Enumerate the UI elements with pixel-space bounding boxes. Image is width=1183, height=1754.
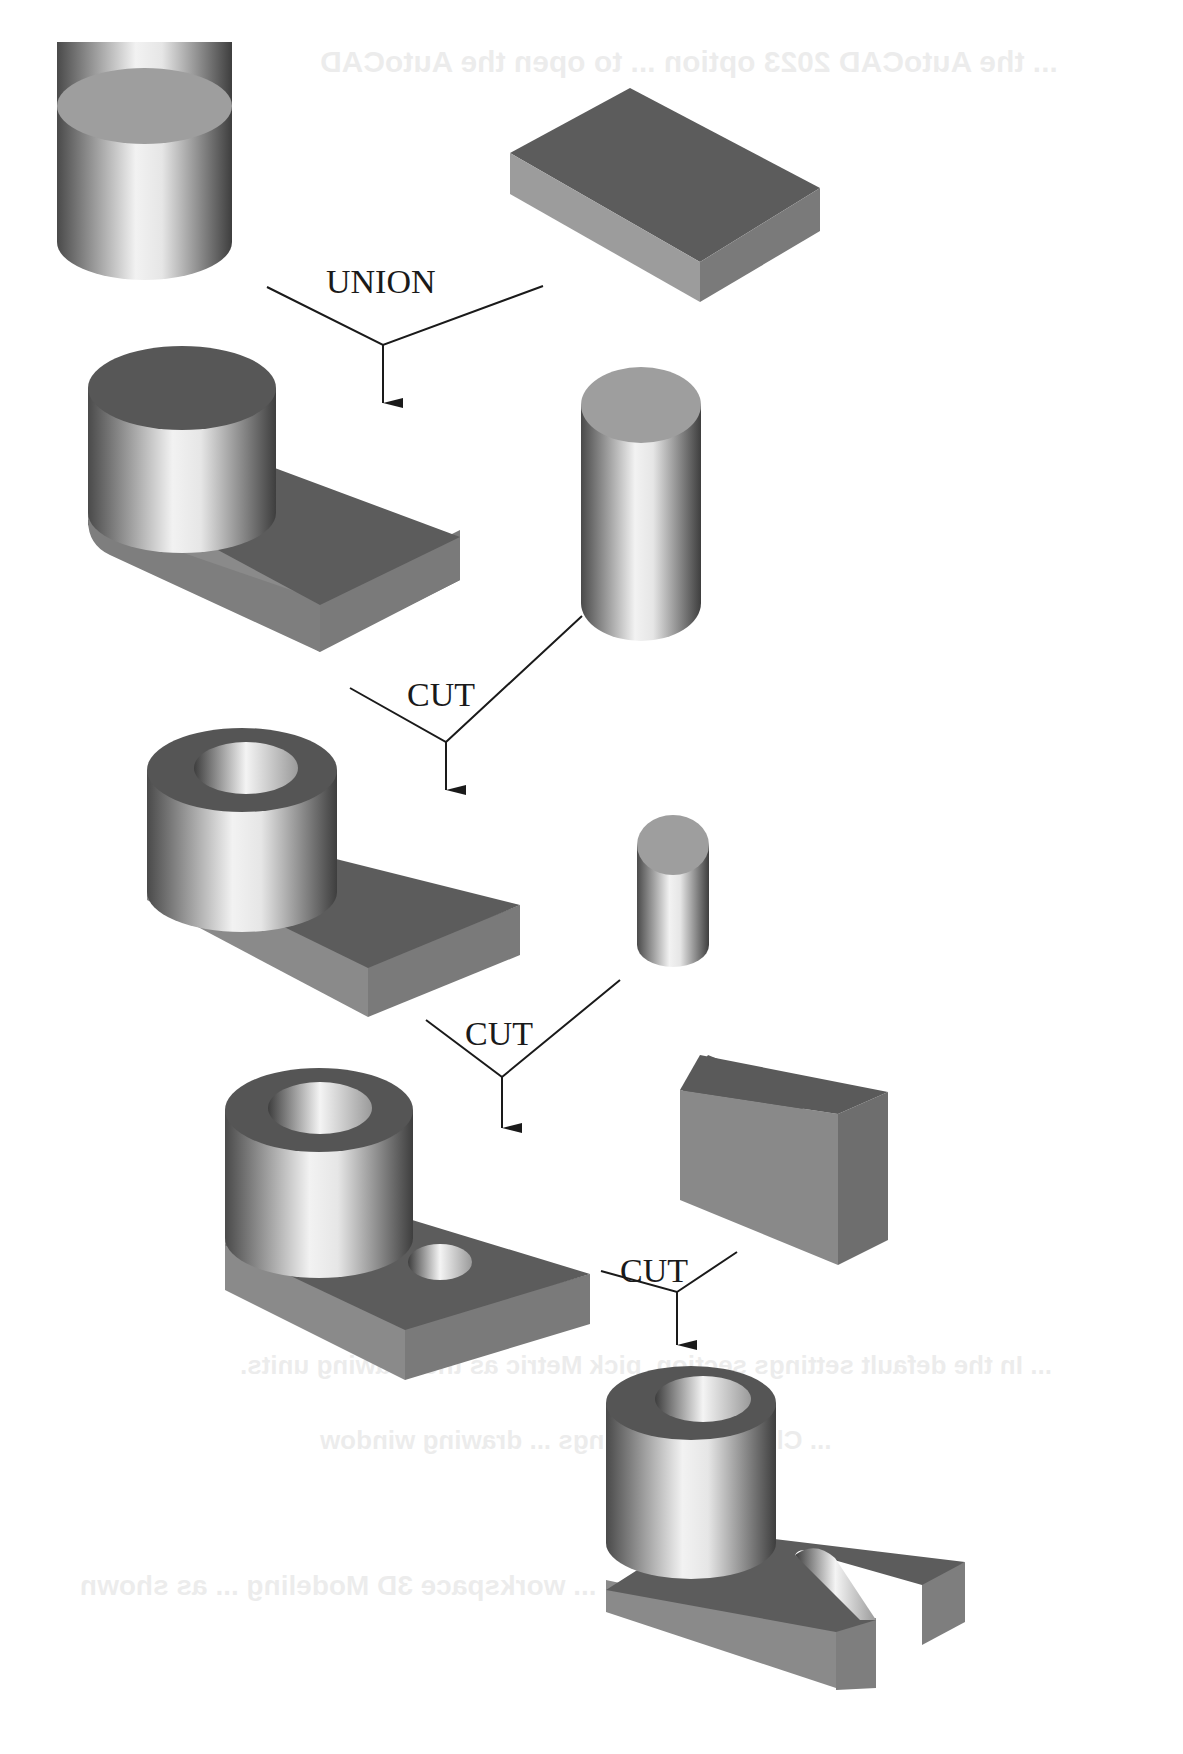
drilled-hole <box>408 1244 472 1280</box>
cut-label-1: CUT <box>407 676 475 713</box>
input-cylinder <box>57 4 232 280</box>
final-slotted-bracket-solid <box>606 1366 965 1690</box>
input-box <box>680 1055 888 1265</box>
cut-label-2: CUT <box>465 1015 533 1052</box>
union-operator: UNION <box>267 263 543 403</box>
boss-with-hole-result-solid <box>225 1068 590 1380</box>
input-rectangular-block <box>510 88 820 302</box>
cut-operator-1: CUT <box>350 616 582 790</box>
cut-label-3: CUT <box>620 1252 688 1289</box>
hollow-boss-result-solid <box>147 728 520 1017</box>
cut-operator-3: CUT <box>601 1252 737 1345</box>
input-tall-cylinder <box>581 367 701 641</box>
union-result-solid <box>88 346 460 652</box>
input-small-cylinder <box>637 815 709 967</box>
cut-operator-2: CUT <box>426 980 620 1128</box>
union-label: UNION <box>326 263 436 300</box>
csg-diagram: UNION CUT <box>0 0 1183 1754</box>
